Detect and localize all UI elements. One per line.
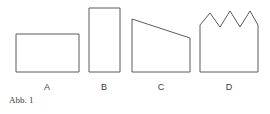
figure-container: A B C D Abb. 1 (0, 0, 270, 114)
shape-d-zigzag (200, 11, 258, 72)
shape-c-trapezoid (132, 19, 190, 72)
shape-label-d: D (209, 82, 249, 92)
figure-caption: Abb. 1 (9, 95, 34, 106)
shapes-canvas (0, 0, 270, 114)
shape-b-rectangle (89, 8, 120, 72)
shape-label-c: C (141, 82, 181, 92)
shape-label-b: B (84, 82, 124, 92)
shape-label-a: A (27, 82, 67, 92)
shape-a-rectangle (16, 34, 79, 72)
